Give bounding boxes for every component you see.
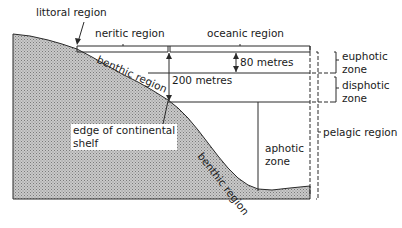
shelf-edge-label: edge of continental shelf: [71, 124, 177, 150]
aphotic-line2: zone: [265, 155, 304, 168]
depth-80-arrow: [233, 53, 239, 72]
disphotic-zone-label: disphotic zone: [342, 79, 390, 105]
neritic-region-label: neritic region: [95, 27, 165, 40]
shelf-edge-label-line1: edge of continental: [73, 124, 175, 137]
euphotic-zone-label: euphotic zone: [342, 50, 388, 76]
aphotic-zone-label: aphotic zone: [265, 142, 304, 168]
depth-80-label: 80 metres: [240, 56, 294, 69]
disphotic-line2: zone: [342, 92, 390, 105]
euphotic-line1: euphotic: [342, 50, 388, 63]
aphotic-line1: aphotic: [265, 142, 304, 155]
littoral-arrow: [75, 22, 84, 45]
diagram-canvas: [0, 0, 402, 228]
oceanic-region-label: oceanic region: [207, 27, 284, 40]
shelf-edge-label-line2: shelf: [73, 137, 175, 150]
pelagic-region-label: pelagic region: [323, 126, 397, 139]
depth-200-label: 200 metres: [172, 74, 232, 87]
disphotic-line1: disphotic: [342, 79, 390, 92]
littoral-region-label: littoral region: [36, 6, 107, 19]
zone-brackets: [310, 46, 339, 199]
marine-zones-diagram: littoral region neritic region oceanic r…: [0, 0, 402, 228]
euphotic-line2: zone: [342, 63, 388, 76]
surface-line: [77, 44, 310, 52]
